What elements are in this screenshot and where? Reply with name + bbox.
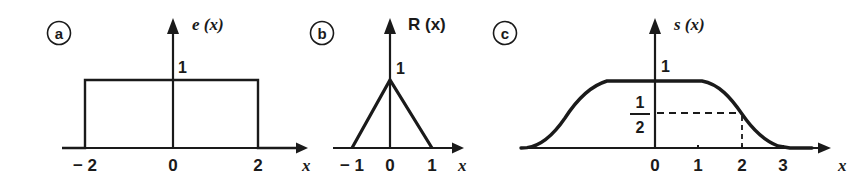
panel-a: a e (x) x 1 − 2 0 2 [48,15,312,175]
panel-a-y-axis-label: e (x) [192,15,224,34]
panel-b-xtick-1: 0 [385,156,394,175]
panel-a-peak-label: 1 [178,59,187,76]
figure-container: a e (x) x 1 − 2 0 2 [0,0,865,179]
panel-b-xtick-2: 1 [427,156,436,175]
panel-c: c s (x) [494,15,848,175]
panel-c-half-label: 1 2 [630,94,650,136]
panel-b-xtick-0: − 1 [340,156,364,175]
panel-b-peak-label: 1 [396,60,405,77]
figure-svg: a e (x) x 1 − 2 0 2 [0,0,865,179]
panel-c-xtick-3: 3 [778,156,787,175]
panel-c-y-axis-label: s (x) [673,15,705,34]
panel-a-tag-label: a [55,25,64,42]
panel-b-y-axis-label: R (x) [408,15,446,34]
panel-a-y-axis [167,18,179,148]
panel-c-xtick-1: 1 [693,156,702,175]
panel-c-tag-label: c [501,25,509,42]
panel-b-curve [352,80,432,148]
panel-c-y-axis [649,18,661,148]
panel-b: b R (x) x 1 − 1 0 1 [311,15,468,175]
panel-c-half-numerator: 1 [636,94,645,111]
panel-a-tag: a [48,22,71,45]
panel-a-x-axis-label: x [301,156,311,175]
panel-b-tag-label: b [317,25,326,42]
panel-a-xtick-2: 2 [253,156,262,175]
panel-c-peak-label: 1 [661,58,670,75]
panel-c-x-axis-label: x [837,156,847,175]
panel-b-tag: b [311,22,334,45]
panel-c-half-denominator: 2 [636,119,645,136]
panel-c-tag: c [494,22,517,45]
panel-c-xtick-0: 0 [650,156,659,175]
panel-a-xtick-0: − 2 [73,156,97,175]
panel-b-x-axis-label: x [457,156,467,175]
panel-c-curve [521,81,812,148]
panel-a-curve [62,80,296,148]
panel-a-xtick-1: 0 [168,156,177,175]
panel-c-xtick-2: 2 [737,156,746,175]
